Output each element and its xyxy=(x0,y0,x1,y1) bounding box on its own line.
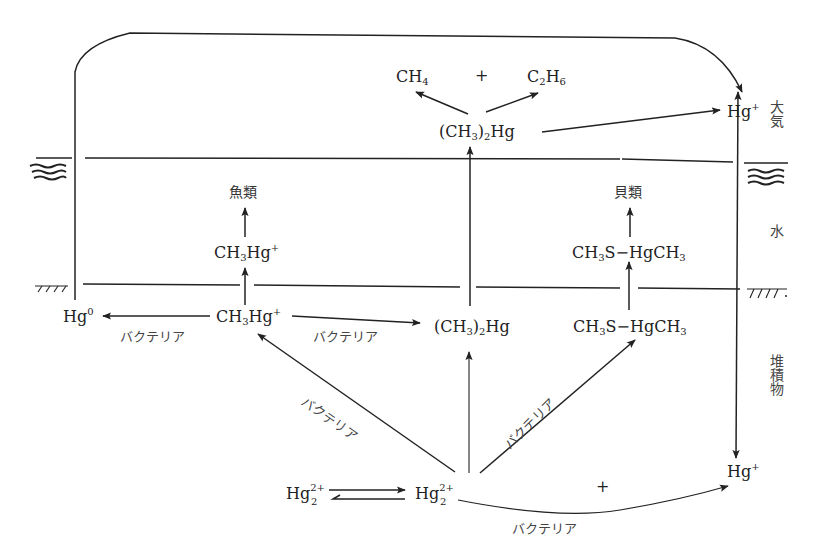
label-bacteria-diag-right: バクテリア xyxy=(502,396,559,453)
node-ch4: CH4 xyxy=(396,67,429,87)
zone-label-sediment: 堆積物 xyxy=(768,354,784,397)
node-c2h6: C2H6 xyxy=(527,67,566,87)
label-bacteria-to-hg0: バクテリア xyxy=(120,329,185,344)
node-dimethylmercury-sediment: (CH3)2Hg xyxy=(434,317,510,337)
label-bacteria-diag-left: バクテリア xyxy=(298,394,360,444)
node-hg-plus-air: Hg+ xyxy=(727,101,760,121)
sediment-hatch-icon-right xyxy=(747,289,787,298)
node-fish: 魚類 xyxy=(229,184,257,200)
node-methylmercury-water: CH3Hg+ xyxy=(214,242,279,263)
wave-icon-left xyxy=(30,165,66,180)
arrow-dimethyl-to-hg-plus xyxy=(542,110,720,132)
plus-bottom: + xyxy=(596,477,609,496)
arrow-to-c2h6 xyxy=(486,93,538,112)
arrow-to-ch4 xyxy=(416,92,468,114)
zone-label-atmosphere: 大気 xyxy=(768,100,784,129)
plus-top: + xyxy=(475,66,488,85)
node-hg2-2plus-center: Hg2+2 xyxy=(415,482,454,507)
water-sediment-boundary xyxy=(83,284,740,289)
arrow-equilibrium-reverse xyxy=(333,495,405,499)
node-dimethylmercury-air: (CH3)2Hg xyxy=(439,122,515,142)
node-hg0: Hg0 xyxy=(63,306,94,326)
node-shellfish: 貝類 xyxy=(614,184,642,200)
label-bacteria-bottom: バクテリア xyxy=(512,521,577,536)
node-hg2-2plus-left: Hg2+2 xyxy=(286,482,325,507)
wave-icon-right xyxy=(748,170,784,185)
node-methylmercury-sediment: CH3Hg+ xyxy=(216,306,281,327)
arrow-methyl-to-dimethyl xyxy=(292,316,420,323)
air-water-boundary xyxy=(36,158,788,163)
arrow-hg-plus-exchange xyxy=(736,92,738,458)
arrow-hg2-to-hg-plus-bottom xyxy=(458,486,728,513)
mercury-cycle-diagram: CH4 + C2H6 (CH3)2Hg Hg+ 大気 水 堆積物 魚類 貝類 C… xyxy=(0,0,814,557)
node-methylthio-water: CH3S−HgCH3 xyxy=(572,243,686,263)
arrow-hg2-to-methyl-sed xyxy=(258,334,455,472)
label-bacteria-to-dimethyl: バクテリア xyxy=(313,329,378,344)
sediment-hatch-icon-left xyxy=(35,286,68,292)
zone-label-water: 水 xyxy=(768,224,784,238)
node-methylthio-sediment: CH3S−HgCH3 xyxy=(573,317,687,337)
node-hg-plus-sediment: Hg+ xyxy=(727,461,760,481)
